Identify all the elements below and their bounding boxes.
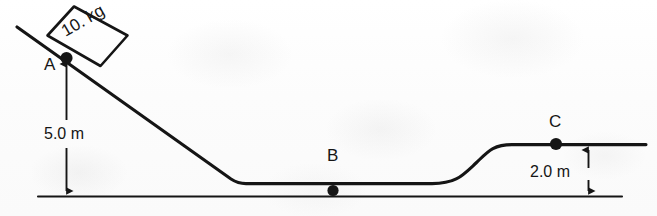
point-marker-a (60, 52, 72, 64)
point-marker-b (327, 185, 338, 196)
dimension-label-height-plateau: 2.0 m (530, 163, 570, 181)
point-label-a: A (44, 55, 55, 75)
point-label-b: B (327, 146, 338, 166)
point-label-c: C (549, 112, 561, 132)
diagram-canvas (0, 0, 657, 216)
point-marker-c (550, 138, 562, 150)
physics-ramp-diagram: A B C 5.0 m 2.0 m 10. kg (0, 0, 657, 216)
dimension-label-height-incline: 5.0 m (44, 125, 84, 143)
